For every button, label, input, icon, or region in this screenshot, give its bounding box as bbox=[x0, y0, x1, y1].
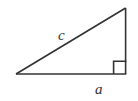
base-label: a bbox=[95, 82, 103, 97]
triangle-hypotenuse-side bbox=[16, 8, 126, 74]
hypotenuse-label: c bbox=[58, 28, 65, 43]
right-angle-marker-icon bbox=[114, 61, 127, 74]
right-triangle-figure: c a bbox=[0, 0, 138, 101]
triangle-drawing bbox=[0, 0, 138, 101]
